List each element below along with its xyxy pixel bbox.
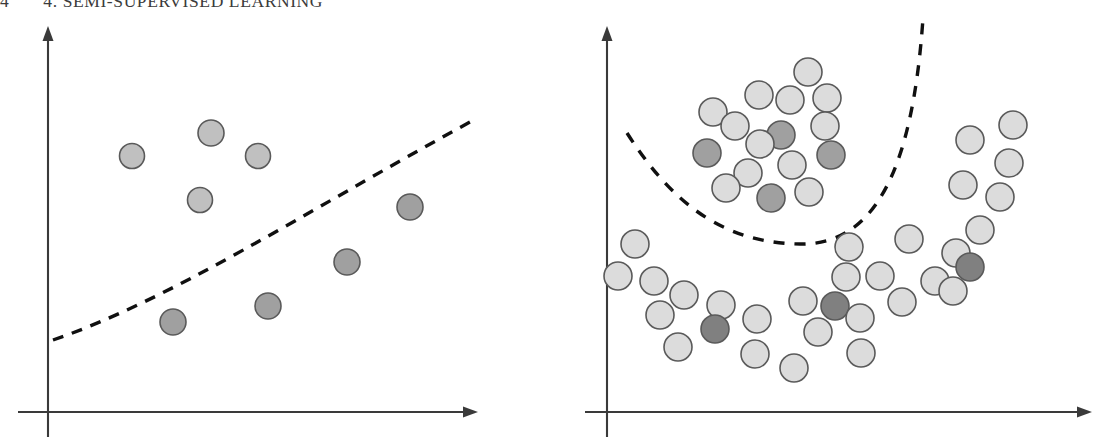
data-point-unlabeled xyxy=(813,84,841,112)
y-axis-arrowhead-icon xyxy=(43,26,54,41)
figure-page: 44. SEMI-SUPERVISED LEARNING xyxy=(0,0,1102,439)
data-point-unlabeled xyxy=(986,183,1014,211)
data-point-unlabeled xyxy=(832,263,860,291)
data-point-unlabeled xyxy=(999,111,1027,139)
data-point-labeled-dark xyxy=(693,139,721,167)
data-point-labeled-light xyxy=(188,188,213,213)
data-point-unlabeled xyxy=(621,230,649,258)
data-point-unlabeled xyxy=(949,171,977,199)
data-point-unlabeled xyxy=(712,174,740,202)
data-point-unlabeled xyxy=(778,151,806,179)
left-panel-canvas xyxy=(0,0,530,439)
left-panel-plot xyxy=(18,26,478,437)
x-axis-arrowhead-icon xyxy=(463,407,478,418)
data-point-unlabeled xyxy=(846,304,874,332)
data-point-labeled-darkest xyxy=(701,315,729,343)
y-axis-arrowhead-icon xyxy=(602,26,613,41)
data-point-unlabeled xyxy=(789,287,817,315)
data-point-labeled-dark xyxy=(397,194,423,220)
data-point-unlabeled xyxy=(835,233,863,261)
data-point-unlabeled xyxy=(780,354,808,382)
data-point-labeled-darkest xyxy=(956,253,984,281)
data-point-labeled-light xyxy=(120,144,145,169)
right-panel-plot xyxy=(585,18,1092,437)
data-point-unlabeled xyxy=(795,178,823,206)
data-point-labeled-darkest xyxy=(821,292,849,320)
data-point-unlabeled xyxy=(664,333,692,361)
data-point-unlabeled xyxy=(743,305,771,333)
data-point-unlabeled xyxy=(956,126,984,154)
data-point-unlabeled xyxy=(866,262,894,290)
x-axis-arrowhead-icon xyxy=(1077,407,1092,418)
data-point-unlabeled xyxy=(746,130,774,158)
data-point-unlabeled xyxy=(804,318,832,346)
data-point-labeled-dark xyxy=(334,249,360,275)
data-point-unlabeled xyxy=(847,339,875,367)
right-panel-canvas xyxy=(560,0,1102,439)
data-point-unlabeled xyxy=(646,301,674,329)
data-point-unlabeled xyxy=(995,149,1023,177)
data-point-labeled-dark xyxy=(757,184,785,212)
data-point-unlabeled xyxy=(741,340,769,368)
data-point-labeled-dark xyxy=(817,141,845,169)
data-point-labeled-dark xyxy=(255,293,281,319)
data-point-unlabeled xyxy=(794,58,822,86)
figure-panel-left xyxy=(0,0,530,439)
data-point-unlabeled xyxy=(745,81,773,109)
data-point-unlabeled xyxy=(721,112,749,140)
data-point-unlabeled xyxy=(939,277,967,305)
data-point-labeled-light xyxy=(198,120,224,146)
data-point-labeled-light xyxy=(246,144,271,169)
data-point-unlabeled xyxy=(811,112,839,140)
data-point-unlabeled xyxy=(776,86,804,114)
data-point-unlabeled xyxy=(895,225,923,253)
data-point-unlabeled xyxy=(966,216,994,244)
data-point-unlabeled xyxy=(640,267,668,295)
data-point-labeled-dark xyxy=(160,309,186,335)
figure-panel-right xyxy=(560,0,1102,439)
data-point-unlabeled xyxy=(670,281,698,309)
data-point-unlabeled xyxy=(888,288,916,316)
data-point-unlabeled xyxy=(604,262,632,290)
